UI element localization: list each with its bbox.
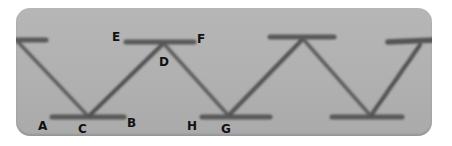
chevron-stitch-illustration bbox=[16, 8, 432, 136]
point-label-c: C bbox=[78, 123, 87, 135]
thread-diagonal bbox=[304, 40, 370, 115]
thread-diagonal bbox=[372, 45, 420, 114]
fabric-panel bbox=[16, 8, 432, 136]
thread-diagonal bbox=[230, 40, 302, 114]
thread-bar-top-right bbox=[388, 40, 432, 42]
point-label-e: E bbox=[112, 31, 120, 43]
point-label-h: H bbox=[187, 120, 197, 132]
point-label-d: D bbox=[159, 56, 169, 68]
point-label-f: F bbox=[197, 33, 205, 45]
point-label-a: A bbox=[38, 120, 47, 132]
thread-diagonal-dg bbox=[165, 45, 228, 115]
point-label-b: B bbox=[127, 117, 136, 129]
point-label-g: G bbox=[221, 123, 231, 135]
thread-diagonal bbox=[18, 42, 88, 116]
stitch-diagram: A C B E F D H G bbox=[0, 0, 452, 146]
thread-diagonal-cd bbox=[90, 44, 163, 115]
